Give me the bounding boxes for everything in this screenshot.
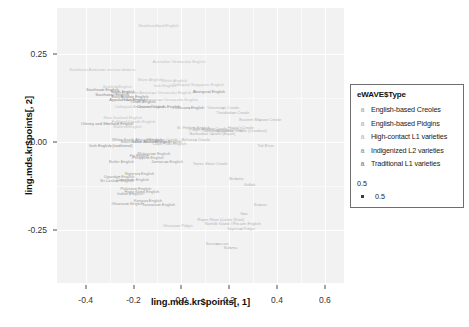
point-label: Welsh English <box>161 79 187 83</box>
point-label: Trinidadian Creole <box>216 111 249 115</box>
legend-item-label: Indigenized L2 varieties <box>371 146 444 155</box>
size-legend-label: 0.5 <box>375 192 385 201</box>
y-tick-mark <box>53 141 57 142</box>
point-label: Irish English <box>154 83 176 87</box>
legend-item-label: English-based Creoles <box>371 105 441 114</box>
x-tick-label: 0.2 <box>223 295 235 305</box>
gridline <box>301 8 302 283</box>
legend-title: eWAVE$Type <box>357 90 458 99</box>
x-tick-mark <box>133 285 134 289</box>
legend-item[interactable]: aEnglish-based Pidgins <box>356 117 458 131</box>
x-tick-mark <box>181 285 182 289</box>
x-tick-mark <box>85 285 86 289</box>
legend-item-list: aEnglish-based CreolesaEnglish-based Pid… <box>356 103 458 171</box>
x-tick-label: -0.4 <box>78 295 93 305</box>
x-tick-label: 0.4 <box>271 295 283 305</box>
y-tick-mark <box>53 230 57 231</box>
size-legend: 0.5 0.5 <box>356 178 458 203</box>
point-label: Kenyan English <box>134 199 162 203</box>
legend-key-icon: a <box>356 131 369 142</box>
point-label: Aboriginal English <box>193 90 225 94</box>
legend-item[interactable]: aHigh-contact L1 varieties <box>356 130 458 144</box>
point-label: Pidgin English <box>189 127 215 131</box>
point-label: Irish English (traditional) <box>89 144 132 148</box>
size-legend-title: 0.5 <box>357 179 458 188</box>
x-tick-mark <box>324 285 325 289</box>
legend-item-label: English-based Pidgins <box>371 119 440 128</box>
point-label: Malaysian English <box>138 152 171 156</box>
plot-panel: Jamaican CreoleBahamian CreoleBelizean C… <box>57 8 344 283</box>
legend-key-icon: a <box>356 104 369 115</box>
color-legend: eWAVE$Type aEnglish-based CreolesaEnglis… <box>350 84 464 208</box>
x-tick-label: 0.6 <box>319 295 331 305</box>
size-legend-rows: 0.5 <box>356 191 458 203</box>
y-tick-label: 0.25 <box>30 49 52 59</box>
legend-key-icon: a <box>356 145 369 156</box>
point-label: Butler English <box>109 160 134 164</box>
point-label: Chicano English <box>175 106 204 110</box>
point-label: Newfoundland English <box>138 23 178 27</box>
point-label: Bislama <box>229 177 243 181</box>
point-label: Tok Pisin <box>257 144 273 148</box>
point-label: Southeast American enclave dialects <box>69 67 135 71</box>
gridline <box>57 98 344 99</box>
y-tick-mark <box>53 53 57 54</box>
gridline <box>57 186 344 187</box>
point-label: Krio <box>240 212 247 216</box>
point-label: Nigerian English <box>125 172 155 176</box>
point-label: Gullah <box>244 183 256 187</box>
point-label: Nigerian Pidgin <box>227 227 254 231</box>
gridline <box>277 8 278 283</box>
point-label: Barbadian Creole (Bajan) <box>190 132 236 136</box>
legend-item[interactable]: aEnglish-based Creoles <box>356 103 458 117</box>
point-label: Orkney and Shetland English <box>81 121 134 125</box>
x-tick-mark <box>229 285 230 289</box>
point-label: Australian Vernacular English <box>153 59 206 63</box>
size-legend-key-icon <box>356 195 369 198</box>
gridline <box>253 8 254 283</box>
point-label: Torres Strait Creole <box>193 162 228 166</box>
gridline <box>325 8 326 283</box>
legend-item-label: High-contact L1 varieties <box>371 132 447 141</box>
size-marker <box>361 195 364 198</box>
x-tick-label: 0.0 <box>175 295 187 305</box>
point-label: Manx English <box>138 78 162 82</box>
point-label: Ghanaian Pidgin <box>163 224 193 228</box>
point-label: Jamaican English <box>151 160 183 164</box>
point-label: Cameroon Pidgin <box>212 127 243 131</box>
legend-item-label: Traditional L1 varieties <box>371 159 440 168</box>
point-label: White South African English <box>112 138 162 142</box>
point-label: Channel Islands English <box>137 105 180 109</box>
x-tick-mark <box>277 285 278 289</box>
x-axis-label: ling.mds.kr$points[, 1] <box>57 296 344 307</box>
gridline <box>134 8 135 283</box>
point-label: Vincentian Creole <box>207 106 239 110</box>
size-legend-item[interactable]: 0.5 <box>356 191 458 203</box>
point-label: Sulama <box>224 246 238 250</box>
y-tick-label: 0.00 <box>30 137 52 147</box>
point-label: Eastern Maroon Creole <box>239 118 281 122</box>
legend-item[interactable]: aTraditional L1 varieties <box>356 157 458 171</box>
legend-key-icon: a <box>356 158 369 169</box>
y-tick-label: -0.25 <box>28 225 52 235</box>
point-label: Sranan <box>254 203 267 207</box>
legend-key-icon: a <box>356 118 369 129</box>
gridline <box>229 8 230 283</box>
mds-scatter-figure: ling.mds.kr$points[, 2] ling.mds.kr$poin… <box>0 0 469 327</box>
gridline <box>86 8 87 283</box>
point-label: Cameroon English <box>116 178 149 182</box>
point-label: Pakistani English <box>121 186 152 190</box>
point-label: Indian English <box>117 192 142 196</box>
legend-item[interactable]: aIndigenized L2 varieties <box>356 144 458 158</box>
x-tick-label: -0.2 <box>126 295 141 305</box>
